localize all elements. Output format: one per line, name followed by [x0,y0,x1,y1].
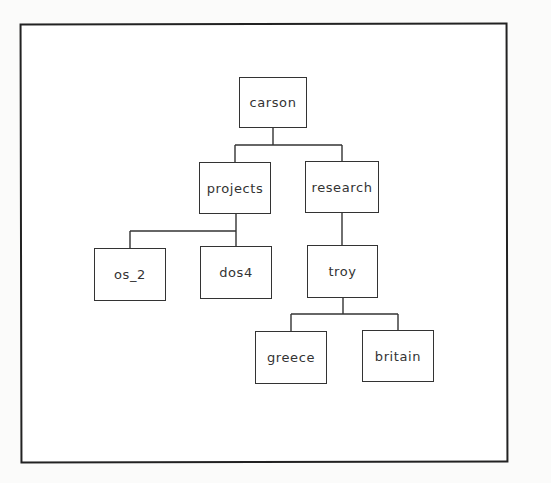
node-label: research [311,180,372,195]
node-label: os_2 [114,267,146,282]
node-dos4: dos4 [200,246,272,299]
node-greece: greece [255,331,327,384]
node-label: projects [207,181,264,196]
node-label: greece [267,350,315,365]
node-label: troy [328,264,356,279]
node-britain: britain [362,330,434,382]
node-projects: projects [199,162,271,214]
node-os_2: os_2 [94,248,166,301]
node-label: britain [375,349,421,364]
node-carson: carson [239,77,307,128]
node-troy: troy [307,245,378,298]
node-research: research [305,161,379,213]
node-label: dos4 [219,265,253,280]
node-label: carson [249,95,296,110]
tree-connectors [0,0,551,483]
